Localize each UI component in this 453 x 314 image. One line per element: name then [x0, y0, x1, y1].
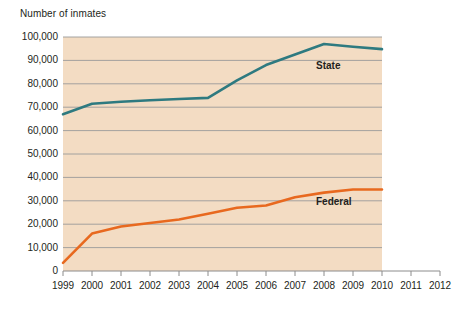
x-axis-tick-label: 2000 [77, 280, 107, 291]
y-axis-tick-label: 80,000 [6, 78, 58, 89]
x-axis-tick-label: 2005 [222, 280, 252, 291]
x-axis-ticks [63, 271, 440, 276]
chart-plot-svg [0, 0, 453, 314]
y-axis-tick-label: 50,000 [6, 148, 58, 159]
x-axis-tick-label: 2004 [193, 280, 223, 291]
x-axis-tick-label: 1999 [48, 280, 78, 291]
x-axis-tick-label: 2012 [425, 280, 453, 291]
y-axis-tick-label: 10,000 [6, 242, 58, 253]
x-axis-tick-label: 2009 [338, 280, 368, 291]
y-axis-tick-label: 40,000 [6, 171, 58, 182]
y-axis-tick-label: 0 [6, 265, 58, 276]
x-axis-tick-label: 2007 [280, 280, 310, 291]
y-axis-tick-label: 90,000 [6, 54, 58, 65]
x-axis-tick-label: 2010 [367, 280, 397, 291]
x-axis-tick-label: 2002 [135, 280, 165, 291]
y-axis-tick-label: 100,000 [6, 31, 58, 42]
series-label-state: State [316, 60, 340, 71]
series-label-federal: Federal [316, 196, 352, 207]
x-axis-tick-label: 2008 [309, 280, 339, 291]
x-axis-tick-label: 2003 [164, 280, 194, 291]
x-axis-tick-label: 2001 [106, 280, 136, 291]
y-axis-tick-label: 30,000 [6, 195, 58, 206]
x-axis-tick-label: 2011 [396, 280, 426, 291]
y-axis-tick-label: 60,000 [6, 125, 58, 136]
y-axis-tick-label: 20,000 [6, 218, 58, 229]
x-axis-tick-label: 2006 [251, 280, 281, 291]
y-axis-tick-label: 70,000 [6, 101, 58, 112]
chart-container: Number of inmates 100,00090,00080,00070,… [0, 0, 453, 314]
